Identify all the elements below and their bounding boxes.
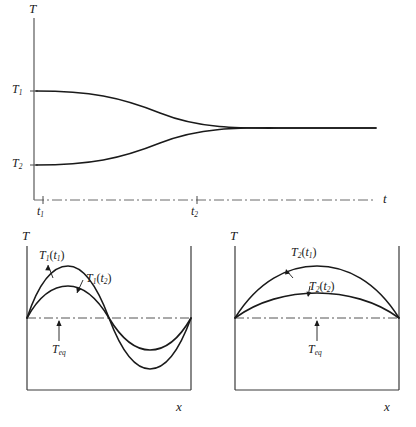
left-panel-arrowhead-Teq bbox=[56, 320, 61, 326]
right-panel-y-axis-label: T bbox=[230, 229, 237, 242]
right-panel-equilibrium-label: Teq bbox=[308, 343, 322, 356]
ytick-T1-sub: 1 bbox=[19, 88, 23, 97]
ytick-T2-sub: 2 bbox=[19, 162, 23, 171]
top-panel-y-axis-label: T bbox=[29, 2, 36, 15]
right-panel-curve-label-T2t2: T2(t2) bbox=[309, 280, 334, 293]
left-panel-curve-label-T1t2: T1(t2) bbox=[86, 272, 111, 285]
top-panel-curve-T1 bbox=[36, 91, 376, 128]
T1t2-base: T bbox=[86, 271, 93, 285]
top-panel-plot bbox=[0, 0, 416, 220]
top-panel-curve-T2 bbox=[36, 128, 376, 165]
top-panel-x-axis-label: t bbox=[383, 192, 387, 205]
Teq-left-base: T bbox=[52, 342, 59, 356]
left-panel-y-axis-label: T bbox=[22, 229, 29, 242]
top-panel-xtick-label-t1: t1 bbox=[37, 205, 44, 218]
xtick-t1-sub: 1 bbox=[40, 210, 44, 219]
left-panel-plot bbox=[5, 238, 205, 423]
xtick-t2-sub: 2 bbox=[194, 210, 198, 219]
T2t2-close-paren: ) bbox=[330, 279, 334, 293]
ytick-T1-base: T bbox=[12, 82, 19, 96]
left-panel-curve-label-T1t1: T1(t1) bbox=[39, 249, 64, 262]
thermal-relaxation-figure: T t T1 T2 t1 t2 T x T1(t bbox=[0, 0, 416, 427]
right-panel-curve-T2t2 bbox=[235, 293, 399, 318]
left-panel-arrowhead-T1t1 bbox=[45, 265, 50, 271]
left-panel-x-axis-label: x bbox=[176, 400, 182, 413]
top-panel-ytick-label-T1: T1 bbox=[12, 83, 22, 96]
Teq-right-sub: eq bbox=[315, 348, 322, 357]
right-panel-x-axis-label: x bbox=[384, 400, 390, 413]
left-panel-equilibrium-label: Teq bbox=[52, 343, 66, 356]
T2t2-base: T bbox=[309, 279, 316, 293]
Teq-left-sub: eq bbox=[59, 348, 66, 357]
Teq-right-base: T bbox=[308, 342, 315, 356]
right-panel-arrowhead-Teq bbox=[314, 320, 319, 326]
right-panel-plot bbox=[213, 238, 413, 423]
T1t1-close-paren: ) bbox=[60, 248, 64, 262]
top-panel-ytick-label-T2: T2 bbox=[12, 157, 22, 170]
T2t1-close-paren: ) bbox=[312, 245, 316, 259]
T2t1-base: T bbox=[291, 245, 298, 259]
ytick-T2-base: T bbox=[12, 156, 19, 170]
top-panel-xtick-label-t2: t2 bbox=[191, 205, 198, 218]
T1t1-base: T bbox=[39, 248, 46, 262]
right-panel-curve-label-T2t1: T2(t1) bbox=[291, 246, 316, 259]
T1t2-close-paren: ) bbox=[107, 271, 111, 285]
right-panel-arrowhead-T2t1 bbox=[285, 269, 290, 274]
